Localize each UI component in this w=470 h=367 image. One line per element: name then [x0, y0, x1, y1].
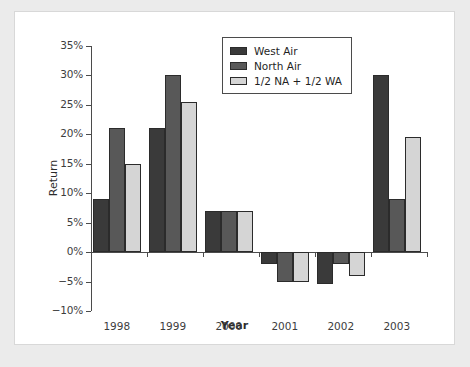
- bar: [205, 211, 221, 252]
- bar: [373, 75, 389, 252]
- cropped-caption-text: [33, 12, 293, 20]
- y-tick-mark: [86, 164, 91, 165]
- y-tick-label: −5%: [58, 275, 83, 287]
- y-tick-label: 30%: [60, 68, 83, 80]
- legend-item-west-air: West Air: [230, 43, 342, 58]
- legend-item-north-air: North Air: [230, 58, 342, 73]
- x-tick-mark: [203, 252, 204, 257]
- y-tick-mark: [86, 75, 91, 76]
- bar: [165, 75, 181, 252]
- y-tick-mark: [86, 134, 91, 135]
- legend-swatch-combined: [230, 77, 247, 85]
- bar: [333, 252, 349, 264]
- y-tick-mark: [86, 105, 91, 106]
- bar: [109, 128, 125, 252]
- legend-label-north-air: North Air: [254, 60, 301, 72]
- bar: [125, 164, 141, 252]
- bar: [237, 211, 253, 252]
- x-tick-label: 2000: [215, 320, 242, 332]
- y-tick-mark: [86, 193, 91, 194]
- y-tick-label: 10%: [60, 186, 83, 198]
- y-tick-label: 5%: [67, 216, 83, 228]
- y-tick-label: 15%: [60, 157, 83, 169]
- bar: [261, 252, 277, 264]
- x-tick-label: 1999: [159, 320, 186, 332]
- legend-label-combined: 1/2 NA + 1/2 WA: [254, 75, 342, 87]
- legend-swatch-north-air: [230, 62, 247, 70]
- bar: [181, 102, 197, 252]
- bar: [405, 137, 421, 252]
- bar: [93, 199, 109, 252]
- bar: [277, 252, 293, 281]
- y-tick-label: −10%: [52, 304, 83, 316]
- x-tick-mark: [147, 252, 148, 257]
- bar: [221, 211, 237, 252]
- chart-legend: West Air North Air 1/2 NA + 1/2 WA: [222, 37, 352, 94]
- y-tick-label: 20%: [60, 127, 83, 139]
- y-tick-label: 35%: [60, 39, 83, 51]
- y-tick-mark: [86, 252, 91, 253]
- x-tick-mark: [427, 252, 428, 257]
- y-tick-label: 0%: [67, 245, 83, 257]
- bar: [389, 199, 405, 252]
- x-tick-label: 2002: [327, 320, 354, 332]
- bar: [349, 252, 365, 276]
- bar: [317, 252, 333, 284]
- x-tick-mark: [371, 252, 372, 257]
- x-tick-label: 2003: [383, 320, 410, 332]
- bar: [149, 128, 165, 252]
- y-axis-title: Return: [47, 160, 60, 197]
- y-tick-mark: [86, 46, 91, 47]
- y-tick-label: 25%: [60, 98, 83, 110]
- y-tick-mark: [86, 282, 91, 283]
- legend-item-combined: 1/2 NA + 1/2 WA: [230, 73, 342, 88]
- x-tick-label: 1998: [103, 320, 130, 332]
- y-axis-line: [91, 46, 92, 311]
- y-tick-mark: [86, 223, 91, 224]
- x-tick-label: 2001: [271, 320, 298, 332]
- legend-swatch-west-air: [230, 47, 247, 55]
- chart-figure-panel: Return Year 35%30%25%20%15%10%5%0%−5%−10…: [14, 11, 455, 345]
- bar: [293, 252, 309, 281]
- y-tick-mark: [86, 311, 91, 312]
- legend-label-west-air: West Air: [254, 45, 298, 57]
